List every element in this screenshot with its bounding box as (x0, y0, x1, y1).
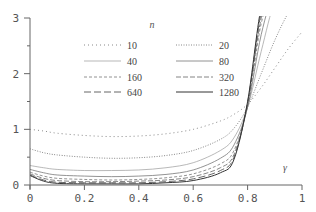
chart-svg: 00.20.40.60.810123 102040801603206401280… (0, 0, 316, 212)
x-tick-label: 0.8 (238, 192, 258, 205)
curve-n-1280 (30, 0, 302, 184)
legend-label-n-320: 320 (219, 72, 234, 83)
x-tick-label: 1 (299, 192, 306, 205)
x-tick-label: 0.6 (183, 192, 203, 205)
y-tick-label: 3 (12, 12, 19, 25)
curve-n-640 (30, 0, 302, 183)
curve-n-40 (30, 0, 302, 171)
curve-n-10 (30, 32, 302, 137)
x-tick-label: 0 (27, 192, 34, 205)
legend-title: n (150, 19, 155, 30)
legend-label-n-40: 40 (127, 56, 137, 67)
curve-n-160 (30, 0, 302, 180)
legend-label-n-640: 640 (127, 87, 142, 98)
legend-label-n-80: 80 (219, 56, 229, 67)
data-curves (30, 0, 302, 184)
legend-label-n-20: 20 (219, 40, 229, 51)
axes: 00.20.40.60.810123 (12, 12, 305, 205)
legend-label-n-1280: 1280 (219, 87, 239, 98)
curve-n-80 (30, 0, 302, 177)
x-tick-label: 0.4 (129, 192, 149, 205)
y-tick-label: 0 (12, 179, 19, 192)
curve-n-320 (30, 0, 302, 182)
y-tick-label: 2 (12, 68, 19, 81)
legend-label-n-160: 160 (127, 72, 142, 83)
y-tick-label: 1 (12, 123, 19, 136)
legend-label-n-10: 10 (127, 40, 137, 51)
x-axis-label: γ (283, 162, 288, 173)
x-tick-label: 0.2 (74, 192, 94, 205)
legend: 102040801603206401280 (84, 40, 239, 98)
